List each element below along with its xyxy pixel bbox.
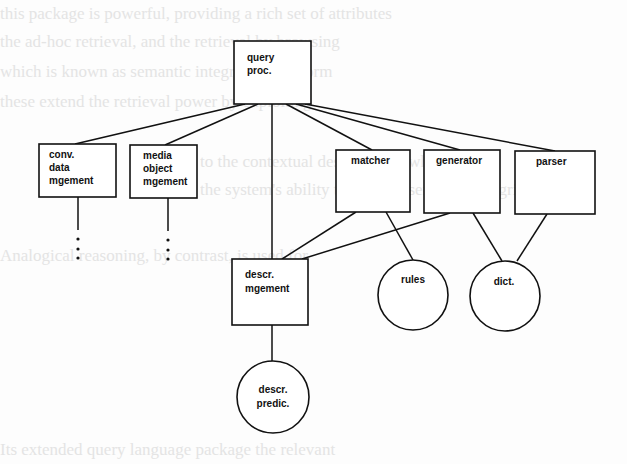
node-label: descr. <box>245 269 274 280</box>
node-generator: generator <box>424 150 500 213</box>
node-descr-mgement: descr. mgement <box>232 259 308 325</box>
node-query-proc: query proc. <box>234 41 311 104</box>
node-label: media <box>143 150 172 161</box>
edge-query-media-object <box>165 104 258 145</box>
node-label: data <box>49 162 70 173</box>
node-label: mgement <box>143 176 188 187</box>
ellipsis-media-object <box>166 238 169 260</box>
node-label: rules <box>401 274 425 285</box>
ellipsis-conv-data <box>76 237 79 259</box>
edge-generator-dict <box>473 213 502 261</box>
node-label: mgement <box>245 283 290 294</box>
node-label: proc. <box>247 65 272 76</box>
node-rules: rules <box>378 260 448 330</box>
node-label: conv. <box>49 149 75 160</box>
node-label: descr. <box>259 384 288 395</box>
node-label: matcher <box>351 155 390 166</box>
edge-query-parser <box>305 104 555 151</box>
edge-parser-dict <box>517 214 547 261</box>
node-dict: dict. <box>470 261 540 331</box>
node-label: generator <box>436 155 482 166</box>
node-label: mgement <box>49 175 94 186</box>
node-conv-data-mgement: conv. data mgement <box>39 144 116 197</box>
edge-matcher-rules <box>386 212 413 260</box>
node-label: dict. <box>494 276 515 287</box>
node-media-object-mgement: media object mgement <box>130 145 197 198</box>
node-parser: parser <box>515 151 595 214</box>
edge-query-generator <box>296 104 460 150</box>
node-label: query <box>247 52 275 63</box>
node-descr-predic: descr. predic. <box>237 361 309 433</box>
edge-query-matcher <box>286 104 372 150</box>
architecture-diagram: query proc. conv. data mgement media obj… <box>0 0 627 464</box>
edge-generator-descr-mgement <box>302 213 450 259</box>
node-label: object <box>143 163 173 174</box>
figure-canvas: this package is powerful, providing a ri… <box>0 0 627 464</box>
node-label: predic. <box>257 398 290 409</box>
node-label: parser <box>536 156 567 167</box>
edge-matcher-descr-mgement <box>282 212 356 259</box>
node-matcher: matcher <box>336 150 410 212</box>
edge-query-conv-data <box>75 104 245 144</box>
